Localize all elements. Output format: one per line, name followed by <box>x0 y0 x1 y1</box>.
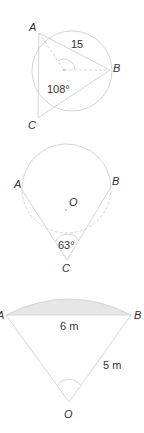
radius-oa <box>39 33 64 70</box>
side-length-label: 15 <box>71 38 83 50</box>
angle-label: 63° <box>58 239 75 251</box>
chord-length-label: 6 m <box>60 320 78 332</box>
label-b: B <box>112 175 119 187</box>
radius-length-label: 5 m <box>103 359 121 371</box>
label-a: A <box>28 21 36 33</box>
major-arc-solid <box>22 144 111 190</box>
center-point <box>65 209 67 211</box>
diagram-circular-segment: A B 6 m 5 m O <box>0 299 141 420</box>
angle-label: 108° <box>47 83 70 95</box>
angle-arc <box>58 59 75 70</box>
label-a: A <box>13 178 21 190</box>
label-b: B <box>134 309 141 321</box>
label-c: C <box>28 119 36 131</box>
label-o: O <box>64 408 73 420</box>
diagram-inscribed-angle: A B O 63° C <box>13 144 119 274</box>
center-point <box>63 69 65 71</box>
diagram-triangle-in-circle: A B C 15 108° <box>28 21 120 131</box>
label-c: C <box>62 262 70 274</box>
segment-ac <box>38 33 39 118</box>
geometry-figures: A B C 15 108° A B O 63° C A B 6 m 5 m O <box>0 0 144 433</box>
label-o: O <box>69 196 78 208</box>
shaded-segment <box>6 299 131 315</box>
label-b: B <box>113 62 120 74</box>
angle-arc <box>57 379 81 386</box>
label-a: A <box>0 309 4 321</box>
